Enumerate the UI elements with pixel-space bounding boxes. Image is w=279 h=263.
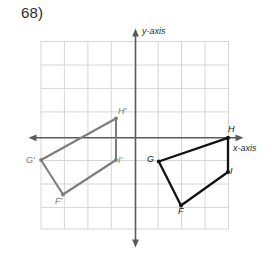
y-axis-label: y-axis	[142, 26, 166, 36]
worksheet-problem-figure: 68)	[0, 0, 279, 263]
preimage-polygon-FGHI	[157, 136, 230, 208]
vertex-label-F-prime: F'	[55, 196, 62, 206]
vertex-point-G-prime	[39, 158, 43, 162]
x-axis-label: x-axis	[233, 143, 257, 153]
coordinate-plane-figure	[0, 0, 279, 263]
vertex-point-H	[226, 136, 230, 140]
vertex-label-F: F	[178, 206, 184, 216]
vertex-label-G: G	[147, 154, 154, 164]
vertex-label-I: I	[230, 166, 233, 176]
vertex-label-H-prime: H'	[118, 106, 126, 116]
vertex-label-G-prime: G'	[26, 155, 35, 165]
vertex-point-H-prime	[114, 117, 118, 121]
vertex-label-H: H	[228, 124, 235, 134]
vertex-label-I-prime: I'	[118, 155, 122, 165]
vertex-point-G	[157, 160, 161, 164]
axis-lines	[29, 29, 244, 248]
